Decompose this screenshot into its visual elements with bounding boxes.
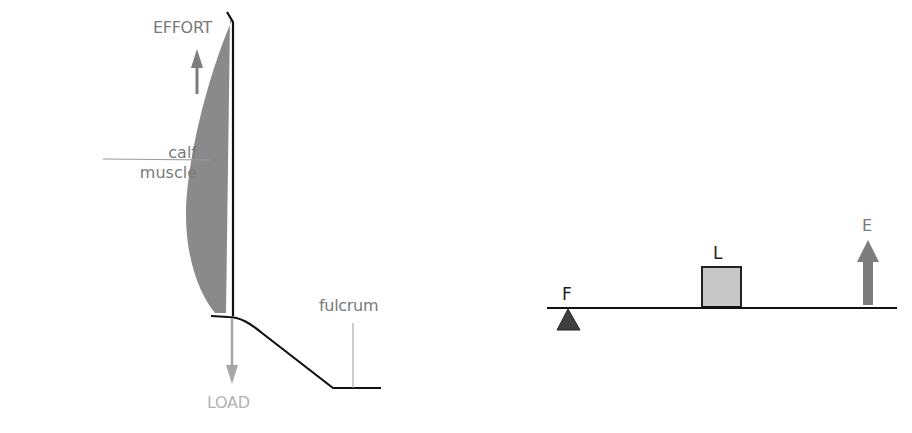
calf-label-line2: muscle: [106, 163, 197, 183]
fulcrum-triangle-icon: [557, 309, 580, 330]
load-arrow-icon: [226, 318, 238, 384]
effort-arrow-up-icon: [857, 240, 879, 305]
calf-label-line1: calf: [123, 143, 197, 163]
lever-load-label: L: [713, 245, 722, 262]
foot-bone-line: [211, 316, 381, 388]
lever-fulcrum-label: F: [562, 286, 572, 303]
diagram-canvas: [0, 0, 912, 433]
lever-effort-label: E: [862, 218, 872, 234]
load-label: LOAD: [207, 395, 250, 411]
load-box: [702, 267, 741, 307]
effort-arrow-icon: [191, 49, 203, 94]
fulcrum-label: fulcrum: [319, 298, 378, 314]
calf-muscle-label: calf muscle: [123, 143, 197, 183]
leg-lever-diagram: [103, 12, 381, 388]
effort-label: EFFORT: [153, 20, 212, 36]
